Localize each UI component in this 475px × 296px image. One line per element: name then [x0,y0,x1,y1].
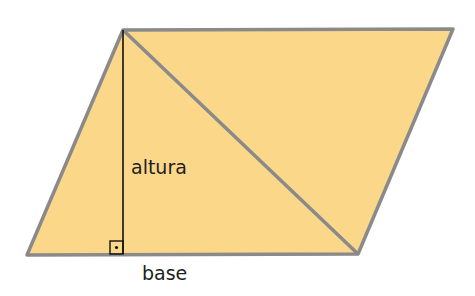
height-label: altura [131,156,187,178]
parallelogram-diagram: altura base [0,0,475,296]
right-angle-dot [115,246,118,249]
base-label: base [142,262,187,284]
